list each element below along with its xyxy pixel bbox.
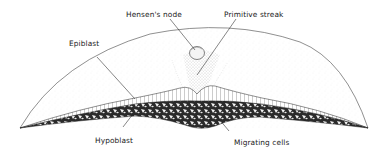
embryo-diagram: Hensen's node Primitive streak Epiblast … <box>0 0 379 158</box>
hensens-node-shape <box>190 47 205 60</box>
label-hypoblast: Hypoblast <box>95 136 133 145</box>
label-hensens-node: Hensen's node <box>126 10 182 19</box>
label-primitive-streak: Primitive streak <box>224 10 284 19</box>
label-epiblast: Epiblast <box>69 39 99 48</box>
label-migrating-cells: Migrating cells <box>234 138 289 147</box>
diagram-canvas: Hensen's node Primitive streak Epiblast … <box>0 0 379 158</box>
